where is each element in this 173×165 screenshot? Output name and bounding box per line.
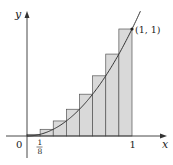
rectangle-8	[119, 29, 132, 136]
rectangle-5	[80, 94, 93, 136]
upper-sum-rectangles	[27, 29, 132, 136]
tick-label-one: 1	[130, 139, 136, 150]
point-label: (1, 1)	[135, 24, 161, 35]
y-axis-label: y	[14, 8, 22, 21]
origin-label: 0	[16, 139, 22, 150]
rectangle-4	[66, 109, 79, 136]
tick-label-eighth-numerator: 1	[38, 138, 43, 147]
x-axis-label: x	[162, 138, 169, 151]
rectangle-7	[106, 54, 119, 136]
point-1-1-marker	[130, 27, 133, 30]
y-axis-arrow-icon	[25, 11, 30, 18]
riemann-sum-diagram: y x 0 1 1 8 (1, 1)	[0, 0, 173, 165]
tick-label-eighth-denominator: 8	[38, 147, 43, 156]
